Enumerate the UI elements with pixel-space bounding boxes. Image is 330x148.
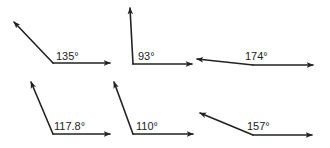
ray-a-arrow-icon [200, 113, 253, 135]
angle-figure: 135° [14, 22, 110, 63]
angle-label: 135° [56, 50, 79, 62]
angle-label: 157° [247, 120, 270, 132]
ray-a-arrow-icon [114, 82, 133, 134]
angle-figure: 110° [114, 82, 193, 134]
angle-label: 174° [245, 50, 268, 62]
angle-figure: 174° [197, 50, 313, 65]
angle-figure: 157° [200, 113, 312, 135]
ray-a-arrow-icon [130, 8, 133, 64]
angle-label: 117.8° [54, 120, 85, 132]
angle-figure: 117.8° [31, 82, 110, 134]
ray-a-arrow-icon [31, 82, 53, 134]
angles-group: 135°93°174°117.8°110°157° [14, 8, 313, 135]
angle-figure: 93° [130, 8, 192, 64]
angle-label: 93° [138, 50, 155, 62]
angle-label: 110° [136, 120, 158, 132]
ray-a-arrow-icon [14, 22, 53, 63]
angle-diagram: 135°93°174°117.8°110°157° [0, 0, 330, 148]
